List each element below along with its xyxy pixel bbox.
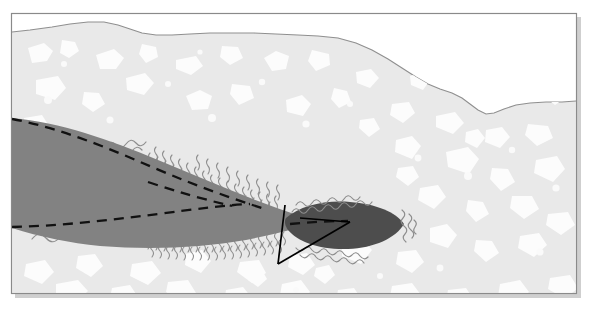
geological-cross-section-svg [0, 0, 591, 321]
figure-root [0, 0, 591, 321]
